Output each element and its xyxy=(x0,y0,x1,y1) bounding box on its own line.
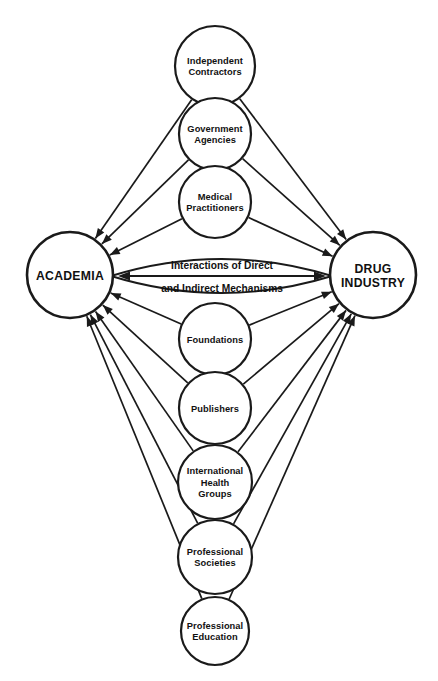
edge-international-health-groups-to-academia-arrowhead xyxy=(96,311,105,321)
edge-independent-contractors-to-drug-industry-arrowhead xyxy=(337,229,346,239)
edge-publishers-to-academia-line xyxy=(103,305,188,383)
edge-government-agencies-to-academia xyxy=(102,160,189,244)
satellite-node-government-agencies-label-line-1: Government xyxy=(187,124,242,134)
edge-foundations-to-academia-arrowhead xyxy=(111,293,122,301)
influence-diagram: Interactions of Direct and Indirect Mech… xyxy=(0,0,438,681)
satellite-node-publishers-label-line-1: Publishers xyxy=(191,404,239,414)
edge-government-agencies-to-drug-industry xyxy=(243,159,340,246)
edge-international-health-groups-to-drug-industry xyxy=(238,310,346,451)
satellite-node-foundations[interactable]: Foundations xyxy=(179,303,251,375)
satellite-node-independent-contractors-label-line-2: Contractors xyxy=(188,67,241,77)
edge-publishers-to-academia xyxy=(103,305,188,383)
edge-publishers-to-drug-industry xyxy=(243,304,339,385)
nodes-layer: ACADEMIADRUGINDUSTRYIndependentContracto… xyxy=(27,26,416,665)
edge-government-agencies-to-drug-industry-line xyxy=(243,159,340,246)
satellite-node-independent-contractors-label-line-1: Independent xyxy=(187,56,243,66)
diagram-canvas: Interactions of Direct and Indirect Mech… xyxy=(0,0,438,681)
hub-node-drug-industry-label-line-2: INDUSTRY xyxy=(341,276,405,290)
satellite-node-international-health-groups[interactable]: InternationalHealthGroups xyxy=(178,445,252,519)
satellite-node-international-health-groups-label-line-2: Health xyxy=(201,478,230,488)
edge-international-health-groups-to-drug-industry-arrowhead xyxy=(337,310,346,320)
edge-independent-contractors-to-drug-industry xyxy=(240,99,346,240)
edge-independent-contractors-to-academia-line xyxy=(95,100,191,239)
satellite-node-professional-societies-label-line-2: Societies xyxy=(194,558,235,568)
satellite-node-government-agencies-label-line-2: Agencies xyxy=(194,135,236,145)
satellite-node-professional-societies[interactable]: ProfessionalSocieties xyxy=(178,520,252,594)
hub-node-drug-industry-label-line-1: DRUG xyxy=(354,262,391,276)
edge-medical-practitioners-to-academia-line xyxy=(110,219,182,255)
edge-foundations-to-academia-line xyxy=(111,293,181,324)
edge-medical-practitioners-to-drug-industry-arrowhead xyxy=(322,249,333,257)
satellite-node-international-health-groups-label-line-3: Groups xyxy=(198,489,231,499)
satellite-node-publishers[interactable]: Publishers xyxy=(179,372,251,444)
satellite-node-medical-practitioners-label-line-1: Medical xyxy=(198,192,232,202)
edge-medical-practitioners-to-academia-arrowhead xyxy=(110,247,121,255)
hub-node-drug-industry[interactable]: DRUGINDUSTRY xyxy=(330,232,416,318)
edge-publishers-to-drug-industry-line xyxy=(243,304,339,385)
center-label-line-1: Interactions of Direct xyxy=(171,260,274,271)
edge-medical-practitioners-to-drug-industry xyxy=(249,218,333,257)
edge-independent-contractors-to-academia-arrowhead xyxy=(95,228,104,238)
satellite-node-professional-education-label-line-2: Education xyxy=(192,632,238,642)
edge-international-health-groups-to-drug-industry-line xyxy=(238,310,346,451)
satellite-node-medical-practitioners[interactable]: MedicalPractitioners xyxy=(179,166,251,238)
satellite-node-professional-societies-label-line-1: Professional xyxy=(187,547,243,557)
hub-node-academia-label-line-1: ACADEMIA xyxy=(36,269,104,283)
center-link-group: Interactions of Direct and Indirect Mech… xyxy=(111,259,332,294)
satellite-node-independent-contractors[interactable]: IndependentContractors xyxy=(175,26,255,106)
hub-node-academia[interactable]: ACADEMIA xyxy=(27,232,113,318)
satellite-node-medical-practitioners-label-line-2: Practitioners xyxy=(186,203,243,213)
satellite-node-professional-education[interactable]: ProfessionalEducation xyxy=(181,597,249,665)
satellite-node-government-agencies[interactable]: GovernmentAgencies xyxy=(179,98,251,170)
satellite-node-international-health-groups-label-line-1: International xyxy=(187,466,243,476)
edge-medical-practitioners-to-drug-industry-line xyxy=(249,218,333,257)
edge-independent-contractors-to-academia xyxy=(95,100,191,239)
edge-independent-contractors-to-drug-industry-line xyxy=(240,99,346,240)
center-label-line-2: and Indirect Mechanisms xyxy=(161,283,283,294)
satellite-node-professional-education-label-line-1: Professional xyxy=(187,621,243,631)
edge-government-agencies-to-academia-line xyxy=(102,160,189,244)
edge-foundations-to-drug-industry-arrowhead xyxy=(321,292,332,299)
satellite-node-foundations-label-line-1: Foundations xyxy=(187,335,243,345)
edge-medical-practitioners-to-academia xyxy=(110,219,182,255)
edge-foundations-to-academia xyxy=(111,293,181,324)
